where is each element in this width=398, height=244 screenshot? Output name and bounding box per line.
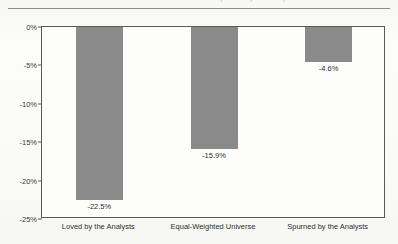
x-category-label: Spurned by the Analysts <box>287 222 368 231</box>
y-tick-label: 0% <box>26 23 37 32</box>
header-rule <box>8 8 390 9</box>
y-tick-mark <box>38 65 42 66</box>
bar-value-label: -4.6% <box>319 64 339 73</box>
bar <box>305 27 352 62</box>
bar-value-label: -15.9% <box>202 151 226 160</box>
y-tick-label: -20% <box>19 176 37 185</box>
clipped-figure-title: Performance of Stocks Loved and Spurned … <box>0 0 398 3</box>
y-tick-label: -25% <box>19 215 37 224</box>
x-category-label: Loved by the Analysts <box>62 222 135 231</box>
x-category-label: Equal-Weighted Universe <box>171 222 256 231</box>
bar-value-label: -22.5% <box>87 202 111 211</box>
y-tick-mark <box>38 103 42 104</box>
bar <box>76 27 123 200</box>
y-tick-label: -10% <box>19 99 37 108</box>
y-tick-mark <box>38 180 42 181</box>
y-tick-mark <box>38 27 42 28</box>
y-tick-label: -15% <box>19 138 37 147</box>
y-tick-label: -5% <box>24 61 37 70</box>
bar <box>191 27 238 149</box>
chart-plot-area: 0%-5%-10%-15%-20%-25% -22.5%-15.9%-4.6% <box>41 26 385 218</box>
y-tick-mark <box>38 142 42 143</box>
y-tick-mark <box>38 219 42 220</box>
